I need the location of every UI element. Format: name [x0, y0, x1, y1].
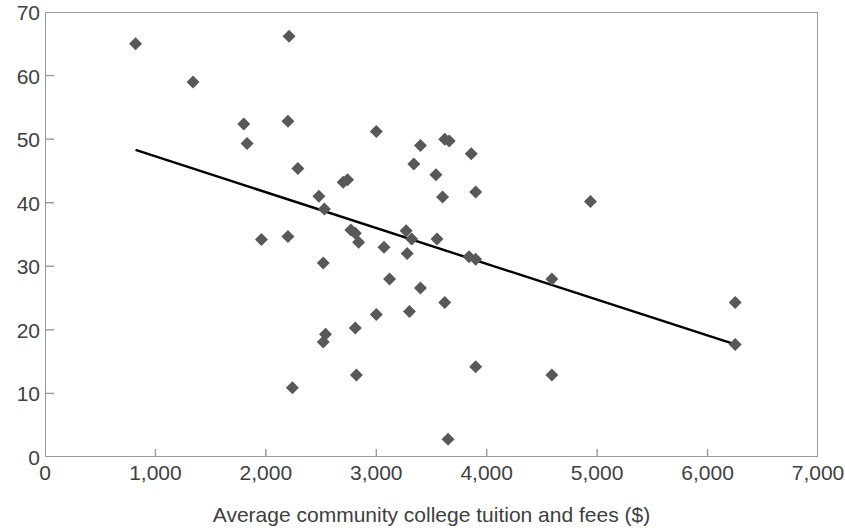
x-axis-tick-label: 1,000 [129, 462, 182, 483]
y-axis-tick-label-group: 010203040506070 [0, 0, 40, 528]
x-axis-tick-label: 7,000 [792, 462, 845, 483]
y-axis-tick-label: 10 [2, 383, 40, 404]
y-axis-tick-label: 60 [2, 65, 40, 86]
x-axis-title: Average community college tuition and fe… [45, 503, 818, 526]
y-axis-tick-label: 30 [2, 256, 40, 277]
y-axis-tick-label: 0 [2, 447, 40, 468]
x-axis-tick-label: 5,000 [571, 462, 624, 483]
y-axis-tick-label: 50 [2, 129, 40, 150]
plot-area-frame [45, 12, 818, 457]
x-axis-tick-label: 2,000 [240, 462, 293, 483]
y-axis-tick-label: 40 [2, 192, 40, 213]
x-axis-tick-label: 0 [39, 462, 51, 483]
scatter-chart-figure: 010203040506070 Average community colleg… [0, 0, 845, 528]
x-axis-tick-label: 4,000 [460, 462, 513, 483]
x-axis-tick-label: 3,000 [350, 462, 403, 483]
y-axis-tick-label: 70 [2, 2, 40, 23]
y-axis-tick-label: 20 [2, 319, 40, 340]
x-axis-tick-label: 6,000 [681, 462, 734, 483]
